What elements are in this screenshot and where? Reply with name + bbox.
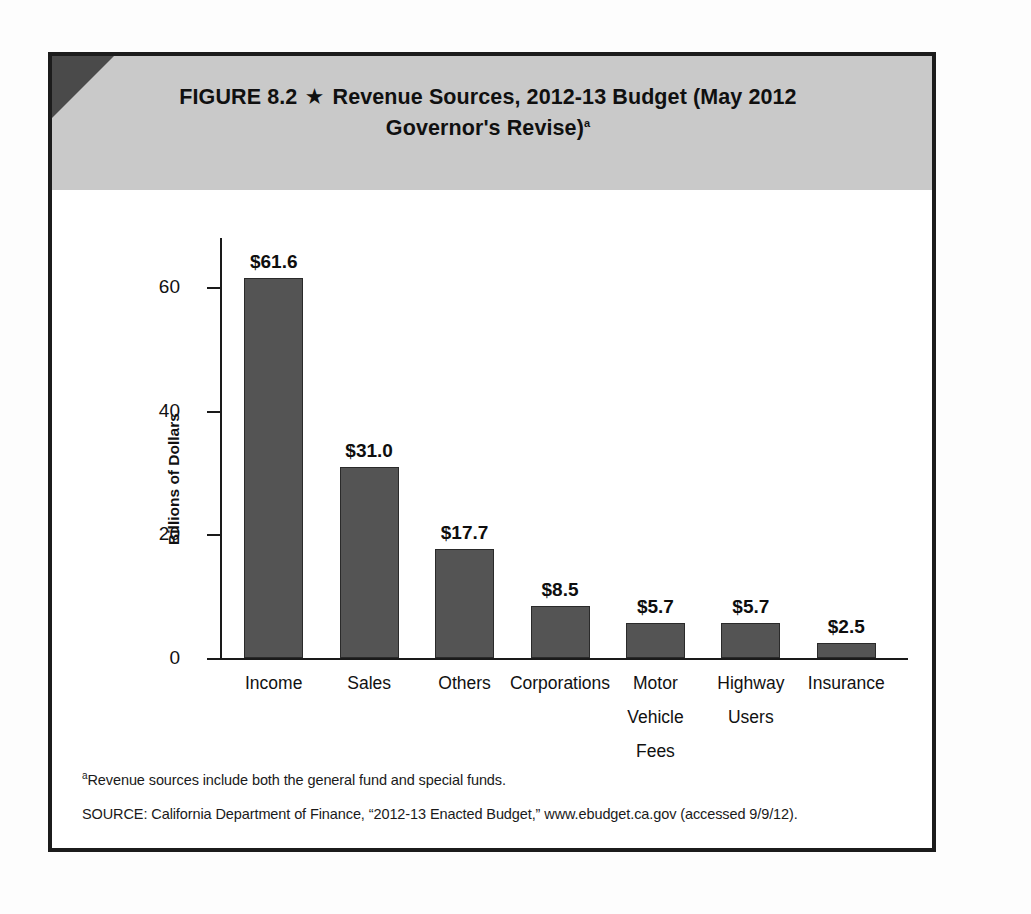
y-axis-tick [207, 534, 220, 536]
figure-title: FIGURE 8.2★Revenue Sources, 2012-13 Budg… [52, 56, 932, 143]
bar-chart: Billions of Dollars 0204060$61.6Income$3… [52, 190, 932, 768]
bar [340, 467, 399, 658]
y-axis-tick [207, 658, 220, 660]
category-label-line: Users [717, 700, 784, 734]
bar [531, 606, 590, 659]
x-axis-category-label: Corporations [510, 666, 610, 700]
y-axis-tick [207, 287, 220, 289]
x-axis-category-label: HighwayUsers [717, 666, 784, 734]
y-axis-line [220, 238, 222, 658]
bar-value-label: $5.7 [637, 596, 674, 618]
x-axis-category-label: Others [438, 666, 491, 700]
bar [244, 278, 303, 658]
figure-notes: aRevenue sources include both the genera… [52, 770, 932, 849]
y-axis-tick-label: 40 [140, 400, 180, 422]
figure-number: FIGURE 8.2 [179, 85, 297, 109]
bar-value-label: $8.5 [542, 579, 579, 601]
category-label-line: Fees [627, 734, 683, 768]
bar-value-label: $61.6 [250, 251, 298, 273]
category-label-line: Income [245, 666, 302, 700]
category-label-line: Insurance [808, 666, 885, 700]
footnote-text: Revenue sources include both the general… [87, 772, 505, 788]
category-label-line: Highway [717, 666, 784, 700]
figure-header-band: FIGURE 8.2★Revenue Sources, 2012-13 Budg… [52, 56, 932, 190]
category-label-line: Others [438, 666, 491, 700]
x-axis-category-label: Sales [347, 666, 391, 700]
bar-value-label: $5.7 [732, 596, 769, 618]
bar-value-label: $31.0 [345, 440, 393, 462]
bar [435, 549, 494, 658]
x-axis-category-label: Income [245, 666, 302, 700]
bar [721, 623, 780, 658]
figure-title-line-2: Governor's Revise) [386, 116, 584, 140]
x-axis-category-label: MotorVehicleFees [627, 666, 683, 768]
category-label-line: Motor [627, 666, 683, 700]
bar-value-label: $2.5 [828, 616, 865, 638]
footnote-line: aRevenue sources include both the genera… [82, 770, 902, 792]
x-axis-category-label: Insurance [808, 666, 885, 700]
bar [626, 623, 685, 658]
y-axis-tick [207, 411, 220, 413]
source-line: SOURCE: California Department of Finance… [82, 804, 902, 826]
y-axis-tick-label: 20 [140, 523, 180, 545]
y-axis-tick-label: 0 [140, 647, 180, 669]
bar [817, 643, 876, 658]
bar-value-label: $17.7 [441, 522, 489, 544]
x-axis-line [220, 658, 908, 660]
category-label-line: Vehicle [627, 700, 683, 734]
y-axis-tick-label: 60 [140, 276, 180, 298]
figure-title-line-1: Revenue Sources, 2012-13 Budget (May 201… [333, 85, 797, 109]
category-label-line: Corporations [510, 666, 610, 700]
title-footnote-marker: a [584, 116, 590, 128]
category-label-line: Sales [347, 666, 391, 700]
plot-region: 0204060$61.6Income$31.0Sales$17.7Others$… [52, 190, 932, 768]
star-icon: ★ [297, 86, 332, 107]
scanned-page: What is in the budget? FIGURE 8.2★Revenu… [0, 0, 1031, 914]
figure-container: FIGURE 8.2★Revenue Sources, 2012-13 Budg… [48, 52, 936, 852]
